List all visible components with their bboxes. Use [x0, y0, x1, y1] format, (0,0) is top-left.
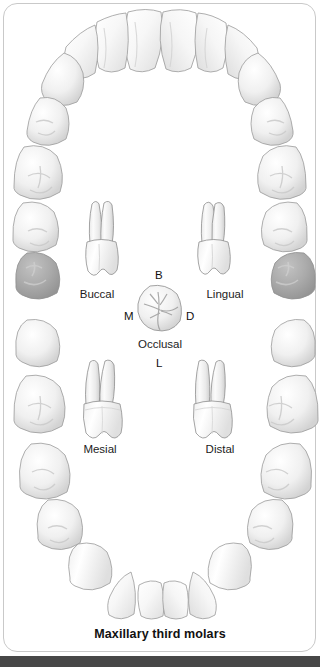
dental-chart-page: Buccal Lingual Occlusal Mesial Distal B …: [0, 0, 320, 667]
label-mesial: Mesial: [65, 443, 135, 455]
label-buccal: Buccal: [62, 288, 132, 300]
tooth-view-lingual: [190, 198, 236, 284]
orientation-marker-buccal: B: [155, 269, 163, 281]
highlighted-third-molar-left: [16, 252, 60, 299]
bottom-bar: [0, 656, 320, 667]
highlighted-third-molar-right: [271, 252, 315, 299]
orientation-marker-lingual: L: [156, 357, 162, 369]
label-lingual: Lingual: [190, 288, 260, 300]
orientation-marker-mesial: M: [124, 310, 134, 322]
label-distal: Distal: [185, 443, 255, 455]
label-occlusal: Occlusal: [125, 338, 195, 350]
tooth-view-buccal: [78, 198, 124, 284]
tooth-view-occlusal: [134, 282, 186, 334]
figure-caption: Maxillary third molars: [0, 627, 320, 641]
tooth-view-mesial: [76, 358, 128, 444]
orientation-marker-distal: D: [186, 310, 194, 322]
tooth-view-distal: [186, 358, 238, 444]
